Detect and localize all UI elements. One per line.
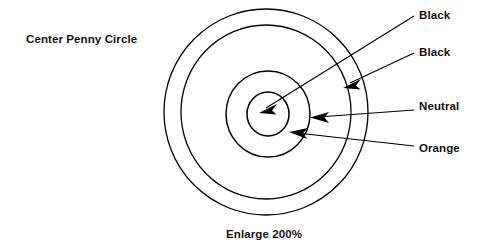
callout-label-black-outer: Black (419, 9, 450, 21)
callout-line-orange (289, 128, 414, 146)
callout-leader-group (259, 16, 414, 146)
arrowhead-neutral (310, 112, 329, 123)
callout-line-black-outer (259, 16, 414, 115)
arrowhead-black-outer (259, 104, 277, 115)
enlarge-note: Enlarge 200% (226, 228, 302, 240)
inner-ring (247, 92, 289, 136)
callout-label-neutral: Neutral (419, 100, 459, 112)
callout-line-neutral (310, 110, 414, 123)
callout-label-orange: Orange (419, 142, 460, 154)
third-ring (226, 71, 310, 157)
page-title: Center Penny Circle (26, 33, 137, 45)
callout-label-black-second: Black (419, 46, 450, 58)
figure-root: Center Penny Circle Enlarge 200% Black B… (0, 0, 478, 249)
